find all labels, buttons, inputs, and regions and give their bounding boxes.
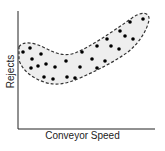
data-point	[39, 52, 43, 56]
x-axis-label: Conveyor Speed	[0, 130, 165, 141]
data-point	[118, 29, 122, 33]
data-point	[42, 75, 46, 79]
data-point	[131, 37, 135, 41]
data-point	[51, 77, 55, 81]
y-axis-label: Rejects	[5, 50, 16, 94]
data-point	[29, 66, 33, 70]
data-point	[109, 44, 113, 48]
data-point	[103, 59, 107, 63]
data-point	[28, 46, 32, 50]
data-point	[30, 57, 34, 61]
data-point	[123, 34, 127, 38]
data-point	[64, 59, 68, 63]
data-point	[80, 50, 84, 54]
data-point	[128, 20, 132, 24]
data-point	[44, 62, 48, 66]
data-point	[117, 47, 121, 51]
data-point	[141, 17, 145, 21]
data-point	[21, 50, 25, 54]
scatter-chart	[0, 0, 165, 151]
data-point	[90, 57, 94, 61]
data-point	[65, 75, 69, 79]
data-point	[73, 76, 77, 80]
data-point	[36, 64, 40, 68]
data-point	[105, 37, 109, 41]
data-point	[53, 65, 57, 69]
data-point	[95, 66, 99, 70]
envelope-region	[19, 13, 149, 84]
data-point	[78, 65, 82, 69]
data-point	[95, 44, 99, 48]
